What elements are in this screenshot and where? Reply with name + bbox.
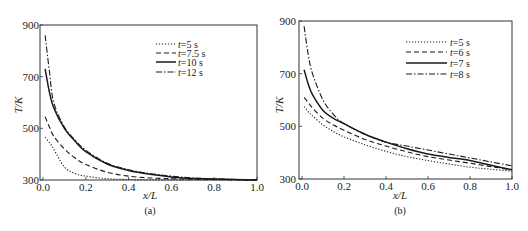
x-tick-label: 0.4: [379, 180, 393, 192]
x-tick-label: 0.6: [165, 181, 179, 193]
y-axis-label: T/K: [273, 96, 285, 113]
x-axis-label: x/L: [392, 189, 407, 201]
panel-caption: (a): [144, 205, 155, 217]
figure: 0.00.20.40.60.81.0300500700900x/LT/K(a)t…: [0, 0, 528, 231]
y-tick-label: 300: [23, 174, 40, 186]
series-line: [304, 70, 512, 170]
y-tick-label: 900: [280, 15, 297, 27]
series-line: [45, 35, 257, 180]
x-tick-label: 1.0: [250, 181, 264, 193]
panel-caption: (b): [394, 205, 406, 217]
legend-label: t=6 s: [450, 47, 470, 58]
y-tick-label: 300: [280, 173, 297, 185]
x-tick-label: 0.0: [295, 180, 309, 192]
x-axis-label: x/L: [142, 189, 157, 201]
x-tick-label: 0.6: [421, 180, 435, 192]
plot-frame: [299, 21, 512, 179]
legend-label: t=12 s: [178, 67, 203, 78]
y-axis-label: T/K: [12, 96, 24, 113]
series-line: [304, 97, 512, 169]
legend-label: t=8 s: [450, 69, 470, 80]
x-tick-label: 0.8: [463, 180, 477, 192]
y-tick-label: 900: [23, 19, 40, 31]
x-tick-label: 0.8: [207, 181, 221, 193]
y-tick-label: 700: [23, 71, 40, 83]
x-tick-label: 1.0: [505, 180, 519, 192]
x-tick-label: 0.2: [79, 181, 93, 193]
y-tick-label: 500: [280, 120, 297, 132]
series-line: [304, 26, 512, 166]
x-tick-label: 0.4: [122, 181, 136, 193]
x-tick-label: 0.2: [337, 180, 351, 192]
legend-label: t=7 s: [450, 58, 470, 69]
y-tick-label: 500: [23, 122, 40, 134]
series-line: [45, 69, 257, 180]
panel-b: 0.00.20.40.60.81.0300500700900x/LT/K(b)t…: [273, 15, 519, 217]
panel-a: 0.00.20.40.60.81.0300500700900x/LT/K(a)t…: [12, 19, 264, 217]
y-tick-label: 700: [280, 68, 297, 80]
series-line: [45, 117, 257, 180]
